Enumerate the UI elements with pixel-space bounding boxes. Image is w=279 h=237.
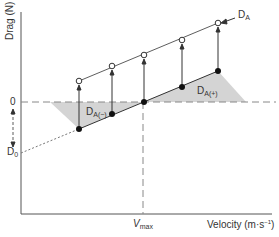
da-pointer-arrow <box>221 18 235 24</box>
zero-label: 0 <box>10 97 16 107</box>
da-line <box>79 23 218 81</box>
da-label: DA <box>238 10 250 21</box>
x-axis-label: Velocity (m·s−1) <box>207 219 274 230</box>
y-axis-label: Drag (N) <box>5 2 15 40</box>
vmax-label: Vmax <box>133 219 153 230</box>
da-positive-region <box>143 71 246 102</box>
drag-velocity-diagram <box>0 0 279 237</box>
d0-bracket-arrow <box>11 109 15 147</box>
d0-extrapolation <box>21 129 79 153</box>
d0-label: D0 <box>7 147 18 158</box>
da-negative-label: DA(−) <box>86 107 107 118</box>
da-positive-label: DA(+) <box>197 86 218 97</box>
